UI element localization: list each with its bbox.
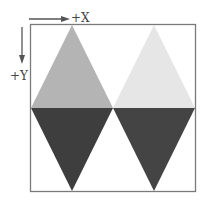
y-axis-label: +Y xyxy=(10,69,29,83)
y-axis-arrow xyxy=(19,27,25,64)
bottom-right-triangle xyxy=(113,108,195,191)
top-left-triangle xyxy=(31,25,113,108)
x-axis-label: +X xyxy=(71,11,90,25)
top-right-triangle xyxy=(113,25,195,108)
bottom-left-triangle xyxy=(31,108,113,191)
x-axis-arrow xyxy=(29,16,70,22)
diamond-diagram: +X +Y xyxy=(0,0,205,202)
